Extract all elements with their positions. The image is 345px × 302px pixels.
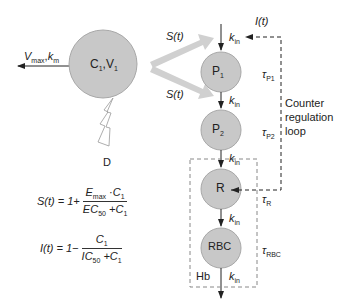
- kin-label-4: kin: [229, 212, 240, 226]
- rbc-label: RBC: [208, 240, 231, 252]
- counter-loop-arrowhead-top: [245, 34, 253, 40]
- counter-regulation-line: [231, 37, 281, 190]
- tau-p1-label: τP1: [262, 68, 275, 82]
- stimulation-label-lower: S(t): [166, 88, 184, 100]
- tau-rbc-label: τRBC: [262, 244, 281, 258]
- hb-label: Hb: [196, 270, 210, 282]
- inhibition-equation: I(t) = 1− C1 IC50 +C1: [40, 233, 122, 264]
- inhibition-label: I(t): [255, 15, 268, 27]
- tau-r-label: τR: [262, 193, 271, 207]
- tau-p2-label: τP2: [262, 126, 275, 140]
- kin-label-5: kin: [229, 270, 240, 284]
- kin-label-1: kin: [229, 31, 240, 45]
- counter-loop-label: Counter regulation loop: [285, 96, 333, 138]
- r-label: R: [216, 181, 225, 195]
- kin-label-3: kin: [229, 152, 240, 166]
- dose-label: D: [103, 156, 111, 168]
- stimulation-label-upper: S(t): [166, 30, 184, 42]
- kin-label-2: kin: [229, 94, 240, 108]
- stimulation-equation: S(t) = 1+ Emax ·C1 EC50 +C1: [37, 186, 127, 217]
- elimination-label: Vmax,km: [24, 50, 59, 64]
- p2-label: P2: [212, 122, 224, 137]
- central-compartment-label: C1,V1: [90, 57, 118, 72]
- dose-lightning-icon: [98, 98, 113, 146]
- p1-label: P1: [212, 64, 224, 79]
